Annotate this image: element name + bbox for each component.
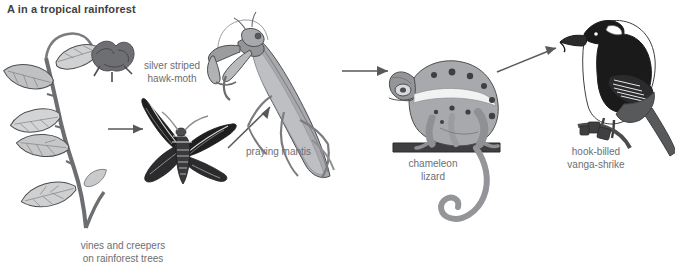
- organism-vine: [1, 34, 134, 228]
- organism-chameleon: [389, 61, 500, 219]
- label-moth: silver striped hawk-moth: [132, 60, 212, 85]
- arrow-chameleon-to-bird: [497, 46, 556, 72]
- organism-moth: [142, 98, 236, 184]
- organism-bird: [560, 20, 675, 156]
- label-vine: vines and creepers on rainforest trees: [58, 240, 188, 265]
- arrow-vine-to-moth: [108, 125, 143, 134]
- label-mantis: praying mantis: [246, 146, 336, 159]
- food-chain-illustration: [0, 0, 675, 269]
- arrow-mantis-to-chameleon: [342, 66, 388, 76]
- label-bird: hook-billed vanga-shrike: [548, 146, 644, 171]
- label-chameleon: chameleon lizard: [392, 158, 474, 183]
